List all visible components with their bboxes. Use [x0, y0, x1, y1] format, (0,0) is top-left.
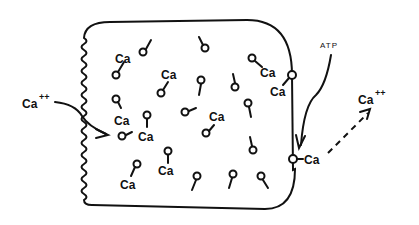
diagram-canvas: Ca ++ ATP Ca Ca ++ Ca [0, 0, 419, 225]
ca-in-charge: ++ [39, 92, 50, 102]
internal-ca-label: Ca [120, 178, 136, 192]
membrane-ca-label: Ca [270, 85, 286, 99]
ca-out-charge: ++ [375, 88, 386, 98]
internal-ca-label: Ca [209, 110, 225, 124]
pump-carrier [289, 155, 297, 163]
atp-arrow [301, 55, 331, 145]
internal-ca-label: Ca [115, 52, 131, 66]
internal-ca-label: Ca [161, 68, 177, 82]
ca-efflux-arrowhead [360, 109, 370, 119]
internal-ca-label: Ca [138, 130, 154, 144]
atp-label: ATP [320, 41, 338, 50]
ca-out-label: Ca [358, 93, 374, 107]
internal-ca-label: Ca [260, 66, 276, 80]
ca-in-label: Ca [22, 97, 38, 111]
internal-ca-label: Ca [158, 164, 174, 178]
ca-influx-arrowhead [96, 129, 108, 138]
ca-efflux-arrow [328, 113, 368, 153]
membrane-carrier-bond [283, 78, 289, 85]
pump-ca-label: Ca [304, 153, 320, 167]
internal-ca-label: Ca [114, 114, 130, 128]
binding-sites [113, 37, 269, 190]
